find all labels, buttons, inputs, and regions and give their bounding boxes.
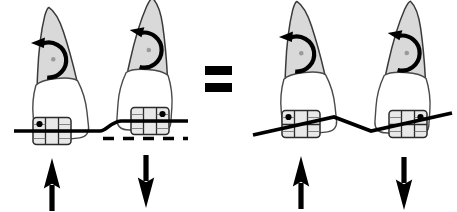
equals-bar-bottom xyxy=(205,83,232,92)
force-arrow-down xyxy=(138,155,154,208)
equals-sign xyxy=(205,66,232,92)
force-arrow-up xyxy=(44,158,60,211)
orthodontic-diagram-svg xyxy=(0,0,457,212)
equals-bar-top xyxy=(205,66,232,75)
right-panel xyxy=(253,0,452,210)
force-arrow-up xyxy=(293,156,309,209)
left-panel xyxy=(14,0,188,211)
figure-canvas: Equivalent force systems of an orthodont… xyxy=(0,0,457,212)
force-arrow-down xyxy=(396,157,412,210)
